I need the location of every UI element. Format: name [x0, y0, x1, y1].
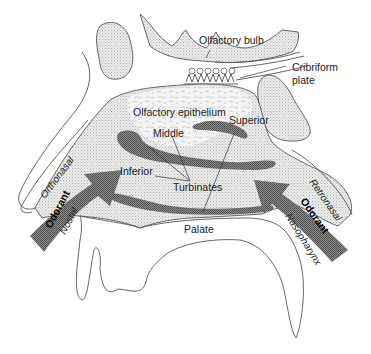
label-superior: Superior — [229, 114, 269, 126]
label-plate: plate — [292, 74, 315, 86]
nasal-cavity-diagram: Olfactory bulb Cribriform plate Olfactor… — [0, 0, 371, 354]
label-middle: Middle — [153, 127, 184, 139]
label-palate: Palate — [184, 223, 214, 235]
frontal-sinus — [97, 22, 133, 79]
label-inferior: Inferior — [120, 165, 153, 177]
label-olfactory-epithelium: Olfactory epithelium — [133, 106, 226, 118]
label-cribriform: Cribriform — [292, 61, 338, 73]
label-olfactory-bulb: Olfactory bulb — [199, 34, 264, 46]
label-turbinates: Turbinates — [173, 181, 222, 193]
cribriform-receptors — [184, 68, 238, 84]
